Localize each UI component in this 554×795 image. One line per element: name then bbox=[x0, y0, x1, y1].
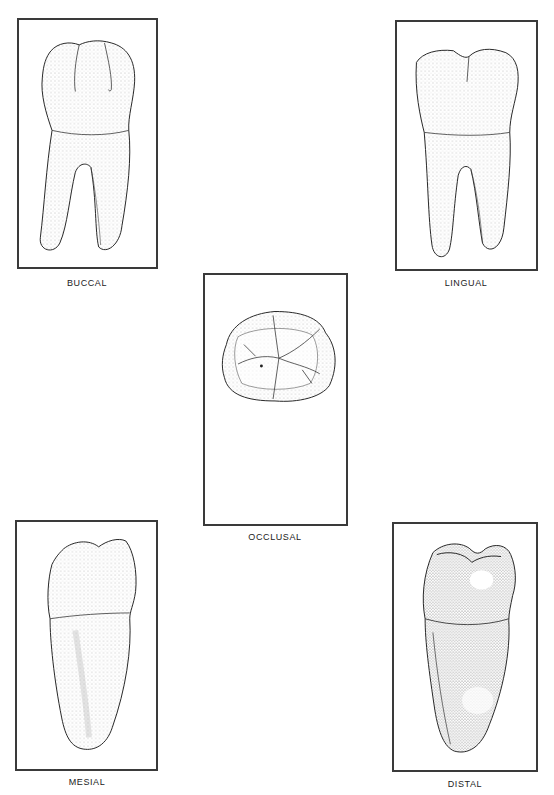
distal-view-frame bbox=[392, 522, 538, 772]
mesial-view-frame bbox=[15, 520, 158, 771]
lingual-tooth-illustration bbox=[397, 22, 536, 269]
distal-label: DISTAL bbox=[395, 779, 535, 789]
lingual-label: LINGUAL bbox=[396, 278, 536, 288]
occlusal-label: OCCLUSAL bbox=[205, 532, 345, 542]
lingual-view-frame bbox=[395, 20, 538, 271]
buccal-view-frame bbox=[17, 18, 158, 269]
buccal-label: BUCCAL bbox=[17, 278, 157, 288]
occlusal-view-frame bbox=[203, 273, 348, 526]
mesial-tooth-illustration bbox=[17, 522, 156, 769]
distal-tooth-illustration bbox=[394, 524, 536, 770]
mesial-label: MESIAL bbox=[17, 777, 157, 787]
occlusal-tooth-illustration bbox=[205, 275, 346, 524]
buccal-tooth-illustration bbox=[19, 20, 156, 267]
